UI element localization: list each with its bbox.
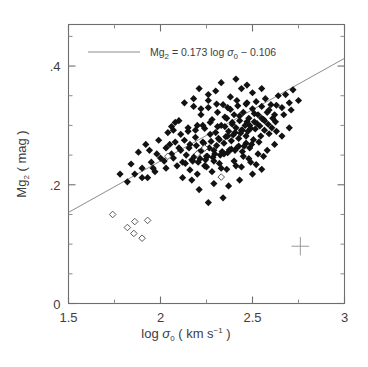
data-point-filled	[280, 111, 287, 118]
data-point-filled	[181, 99, 188, 106]
data-point-filled	[208, 138, 215, 145]
data-point-filled	[219, 194, 226, 201]
data-point-filled	[225, 182, 232, 189]
plot-canvas: 1.522.53 0.2.4 Mg2 = 0.173 log σ0 − 0.10…	[0, 0, 368, 367]
data-point-open	[144, 217, 151, 224]
data-point-filled	[196, 85, 203, 92]
y-axis-label: Mg2 ( mag )	[14, 130, 31, 197]
data-point-filled	[233, 97, 240, 104]
data-point-filled	[212, 129, 219, 136]
data-point-filled	[232, 76, 239, 83]
data-point-filled	[258, 166, 265, 173]
data-point-filled	[155, 137, 162, 144]
data-point-filled	[205, 199, 212, 206]
data-point-filled	[236, 176, 243, 183]
data-point-filled	[282, 91, 289, 98]
legend-equals: = 0.173 log	[169, 46, 227, 58]
data-point-filled	[162, 165, 169, 172]
data-point-filled	[231, 111, 238, 118]
x-label-log: log	[141, 326, 162, 341]
legend-equation-text: Mg2 = 0.173 log σ0 − 0.106	[150, 46, 276, 61]
data-point-filled	[212, 87, 219, 94]
data-point-filled	[139, 165, 146, 172]
data-point-filled	[238, 163, 245, 170]
data-point-filled	[139, 174, 146, 181]
data-point-filled	[208, 168, 215, 175]
data-point-filled	[227, 93, 234, 100]
data-point-filled	[181, 137, 188, 144]
legend-symbol: Mg	[150, 46, 165, 58]
data-point-open	[139, 235, 146, 242]
data-point-filled	[253, 98, 260, 105]
legend-minus-term: − 0.106	[238, 46, 276, 58]
x-label-units-close: )	[223, 326, 231, 341]
x-tick-label: 2.5	[243, 310, 261, 325]
data-point-filled	[205, 104, 212, 111]
y-tick-labels: 0.2.4	[50, 59, 61, 311]
y-tick-label: 0	[53, 297, 60, 312]
data-point-filled	[295, 97, 302, 104]
data-point-filled	[197, 105, 204, 112]
data-point-filled	[186, 166, 193, 173]
data-point-filled	[190, 95, 197, 102]
x-axis-label: log σ0 ( km s−1 )	[141, 326, 230, 343]
data-point-filled	[278, 133, 285, 140]
data-points-group	[109, 76, 302, 242]
data-point-filled	[289, 86, 296, 93]
data-point-filled	[275, 92, 282, 99]
data-point-filled	[146, 147, 153, 154]
data-point-filled	[258, 103, 265, 110]
data-point-filled	[249, 170, 256, 177]
error-bar-cross	[292, 237, 310, 255]
legend: Mg2 = 0.173 log σ0 − 0.106	[88, 46, 276, 61]
data-point-open	[131, 230, 138, 237]
data-point-filled	[127, 160, 134, 167]
data-point-filled	[183, 151, 190, 158]
x-label-units-open: ( km s	[175, 326, 214, 341]
data-point-filled	[264, 147, 271, 154]
y-label-units: ( mag )	[14, 130, 29, 175]
best-fit-line-group	[69, 58, 345, 212]
data-point-filled	[205, 97, 212, 104]
x-tick-label: 1.5	[59, 310, 77, 325]
data-point-filled	[190, 103, 197, 110]
data-point-filled	[124, 178, 131, 185]
data-point-filled	[218, 79, 225, 86]
data-point-filled	[196, 186, 203, 193]
data-point-filled	[223, 166, 230, 173]
y-tick-label: .4	[50, 59, 61, 74]
best-fit-line	[69, 58, 345, 212]
data-point-filled	[142, 141, 149, 148]
mg2-sigma-scatter-figure: 1.522.53 0.2.4 Mg2 = 0.173 log σ0 − 0.10…	[0, 0, 368, 367]
data-point-filled	[258, 85, 265, 92]
data-point-filled	[135, 149, 142, 156]
data-point-filled	[210, 180, 217, 187]
data-point-filled	[214, 109, 221, 116]
y-tick-label: .2	[50, 178, 61, 193]
data-point-filled	[286, 99, 293, 106]
data-point-open	[218, 174, 225, 181]
data-point-open	[109, 211, 116, 218]
data-point-filled	[193, 142, 200, 149]
data-point-filled	[243, 81, 250, 88]
data-point-filled	[234, 102, 241, 109]
data-point-filled	[173, 162, 180, 169]
data-point-filled	[238, 85, 245, 92]
data-point-open	[131, 218, 138, 225]
data-point-filled	[271, 141, 278, 148]
data-point-filled	[194, 170, 201, 177]
data-point-filled	[116, 170, 123, 177]
x-tick-labels: 1.522.53	[59, 310, 348, 325]
data-point-filled	[286, 124, 293, 131]
x-tick-label: 2	[157, 310, 164, 325]
data-point-filled	[213, 100, 220, 107]
data-point-filled	[288, 106, 295, 113]
data-point-filled	[177, 131, 184, 138]
data-point-filled	[257, 133, 264, 140]
x-tick-label: 3	[341, 310, 348, 325]
data-point-filled	[249, 89, 256, 96]
data-point-filled	[188, 176, 195, 183]
data-point-open	[124, 224, 131, 231]
data-point-filled	[179, 174, 186, 181]
y-label-symbol: Mg	[14, 180, 29, 198]
